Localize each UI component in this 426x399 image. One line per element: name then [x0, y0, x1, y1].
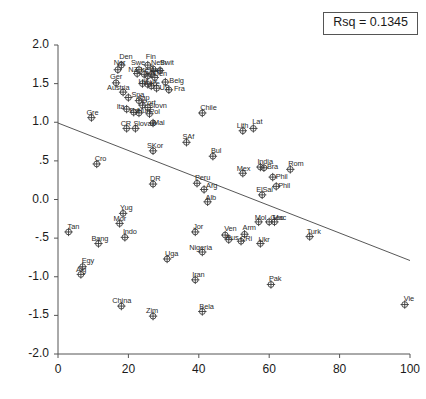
data-point-label: Rus: [226, 234, 239, 241]
data-point-label: Chile: [200, 104, 216, 111]
data-point-label: Ger: [110, 73, 122, 80]
data-point-label: CR: [121, 120, 131, 127]
data-point-label: Turk: [307, 228, 321, 235]
y-tick-label: 1.0: [0, 114, 49, 128]
y-tick-label: 2.0: [0, 37, 49, 51]
y-tick-label: 0.0: [0, 192, 49, 206]
y-tick-label: -1.0: [0, 269, 49, 283]
data-point-label: Uga: [165, 250, 178, 257]
data-point-label: Pol: [150, 108, 160, 115]
data-point-label: Gre: [86, 109, 98, 116]
data-point-label: Slovak: [133, 120, 155, 127]
y-tick-label: -1.5: [0, 307, 49, 321]
scatter-plot-figure: Rsq = 0.1345 VA scores 2.01.51.0.50.0-.5…: [0, 0, 426, 399]
data-point-label: Iran: [192, 271, 204, 278]
data-point-label: Ukr: [258, 236, 269, 243]
data-points-group: [64, 61, 409, 320]
data-point-label: Lith: [237, 122, 249, 129]
data-point-label: Mal: [153, 119, 165, 126]
data-point-label: Rom: [288, 160, 303, 167]
y-tick-marks: [54, 45, 58, 354]
data-point-label: Bang: [91, 235, 108, 242]
x-tick-marks: [58, 354, 410, 358]
data-point-label: CRi: [240, 235, 252, 242]
data-point-label: Egy: [82, 257, 94, 264]
data-point-label: Vie: [404, 295, 414, 302]
data-point-label: China: [112, 297, 131, 304]
data-point-label: Mex: [237, 165, 251, 172]
data-point-label: Geo: [270, 214, 284, 221]
x-tick-label: 20: [103, 362, 153, 376]
data-point-label: Ice: [150, 80, 160, 87]
data-point-label: Phil: [278, 182, 290, 189]
data-point-label: Phil: [276, 173, 288, 180]
data-point-label: Indo: [123, 228, 137, 235]
data-point-label: Alg: [76, 266, 86, 273]
data-point-label: Hun: [137, 107, 150, 114]
data-point-label: Bela: [199, 303, 213, 310]
data-point-label: Mol: [255, 214, 267, 221]
data-point-label: Nigeria: [189, 244, 212, 251]
data-point-label: Bra: [267, 163, 278, 170]
data-point-label: ElSal: [256, 186, 273, 193]
data-point-label: Yug: [120, 204, 132, 211]
data-point-label: Lat: [252, 118, 262, 125]
data-point-label: Jor: [193, 223, 203, 230]
y-tick-label: -.5: [0, 230, 49, 244]
data-point-label: Cro: [95, 155, 107, 162]
data-point-label: Arg: [206, 182, 217, 189]
data-point-label: Austria: [107, 84, 129, 91]
x-tick-label: 60: [244, 362, 294, 376]
data-point-label: Ita: [117, 103, 125, 110]
data-point-label: Pak: [269, 275, 281, 282]
data-point-label: Ven: [224, 225, 236, 232]
data-point-label: DR: [150, 175, 160, 182]
data-point-label: SKor: [147, 142, 163, 149]
data-point-label: US: [160, 84, 170, 91]
y-tick-label: -2.0: [0, 346, 49, 360]
data-point-label: Zim: [146, 307, 158, 314]
data-point-label: Bul: [211, 147, 221, 154]
data-point-label: Tan: [68, 223, 80, 230]
data-point-label: Fra: [174, 85, 185, 92]
data-point-label: NZ: [128, 66, 138, 73]
y-tick-label: 1.5: [0, 76, 49, 90]
x-tick-label: 80: [315, 362, 365, 376]
x-tick-label: 40: [174, 362, 224, 376]
x-tick-label: 100: [385, 362, 426, 376]
x-tick-label: 0: [33, 362, 83, 376]
y-tick-label: .5: [0, 153, 49, 167]
data-point-label: Arm: [243, 224, 256, 231]
data-point-label: SAf: [182, 133, 194, 140]
data-point-label: Mor: [114, 215, 126, 222]
data-point-label: Nor: [114, 59, 126, 66]
data-point-label: Alb: [206, 194, 216, 201]
